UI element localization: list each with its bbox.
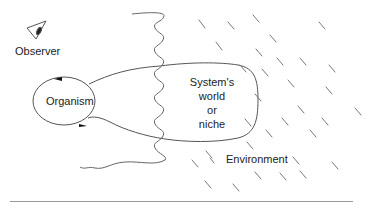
niche-label-line: world: [176, 89, 248, 103]
environment-label: Environment: [226, 152, 288, 166]
niche-label: System's world or niche: [176, 75, 248, 131]
observer-label: Observer: [15, 44, 60, 58]
niche-label-line: niche: [176, 117, 248, 131]
eye-icon: [27, 21, 46, 39]
organism-label: Organism: [46, 94, 94, 108]
arrow-right-icon: [79, 124, 87, 127]
system-boundary-wave: [80, 13, 166, 169]
divider-line: [10, 201, 353, 202]
niche-label-line: or: [176, 103, 248, 117]
niche-label-line: System's: [176, 75, 248, 89]
